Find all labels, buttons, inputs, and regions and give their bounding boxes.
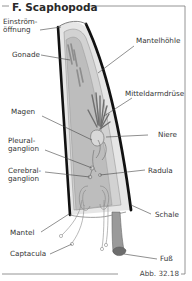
label-mantelhoehle: Mantelhöhle [136,37,180,45]
label-pleuralganglion: Pleural- ganglion [8,137,39,153]
scaphopoda-figure: F. Scaphopoda Einström- öffnung Gonade M… [0,0,192,281]
label-einstroemoeffnung: Einström- öffnung [3,18,37,34]
leader-schale [131,205,151,214]
label-mitteldarmdruese: Mitteldarmdrüse [125,90,184,98]
label-einstroem-line2: öffnung [3,26,37,34]
label-pleural-line2: ganglion [8,145,39,153]
figure-caption: Abb. 32.18 [138,269,181,278]
label-radula: Radula [148,167,173,175]
leader-mantel [41,214,69,232]
label-schale: Schale [155,211,179,219]
label-cerebral-line2: ganglion [8,175,41,183]
leader-mantelhoehle [98,46,134,73]
label-gonade: Gonade [12,51,40,59]
label-niere: Niere [158,131,177,139]
label-cerebralganglion: Cerebral- ganglion [8,167,41,183]
label-fuss: Fuß [160,255,173,263]
figure-title: F. Scaphopoda [12,1,98,13]
leader-captacula [50,244,72,254]
label-mantel: Mantel [10,229,34,237]
fuss-tip [113,247,126,256]
leader-fuss [124,254,157,259]
label-magen: Magen [11,108,35,116]
label-captacula: Captacula [10,250,46,258]
